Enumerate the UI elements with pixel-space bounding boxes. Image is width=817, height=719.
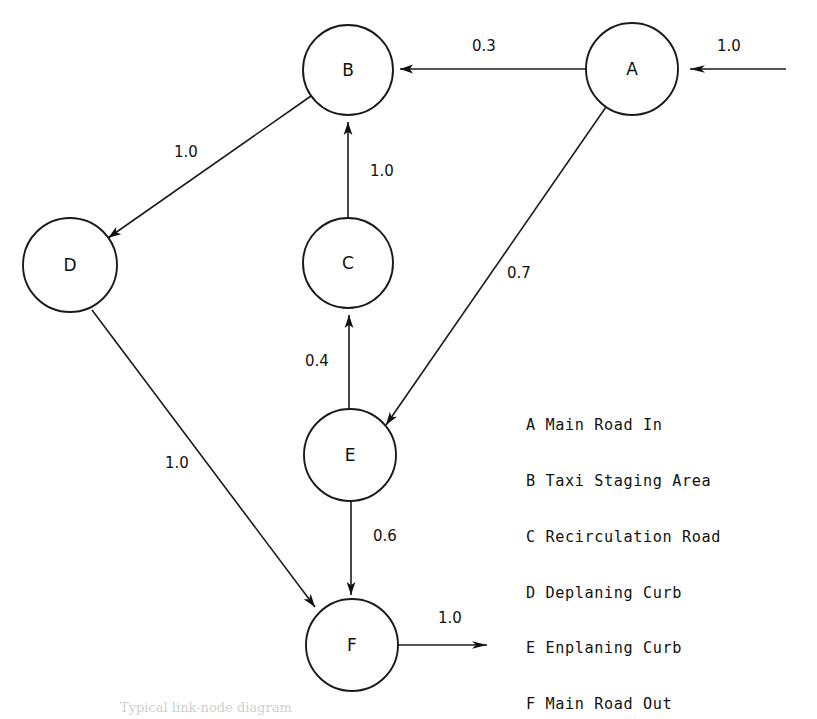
node-label-D: D — [63, 255, 76, 275]
legend: A Main Road In B Taxi Staging Area C Rec… — [526, 379, 721, 719]
edge-A-to-B: 0.3 — [400, 37, 586, 69]
edge-label-out-F: 1.0 — [438, 609, 462, 627]
node-label-C: C — [342, 253, 354, 273]
edge-label-E-C: 0.4 — [305, 352, 329, 370]
edge-E-to-C: 0.4 — [305, 315, 349, 409]
node-label-E: E — [345, 445, 356, 465]
legend-item-B: B Taxi Staging Area — [526, 472, 721, 491]
node-E[interactable]: E — [304, 409, 396, 501]
legend-item-A: A Main Road In — [526, 416, 721, 435]
node-F[interactable]: F — [306, 599, 398, 691]
node-B[interactable]: B — [303, 25, 393, 115]
node-label-A: A — [626, 59, 638, 79]
legend-item-C: C Recirculation Road — [526, 528, 721, 547]
edge-label-D-F: 1.0 — [165, 454, 189, 472]
edge-A-to-E: 0.7 — [386, 107, 606, 425]
edge-label-A-B: 0.3 — [472, 37, 496, 55]
edge-F-to-external: 1.0 — [398, 609, 487, 645]
edge-D-to-F: 1.0 — [92, 310, 315, 607]
edge-E-to-F: 0.6 — [351, 501, 397, 595]
node-label-B: B — [342, 60, 354, 80]
edge-label-in-A: 1.0 — [717, 37, 741, 55]
edge-external-to-A: 1.0 — [690, 37, 786, 69]
node-label-F: F — [347, 635, 357, 655]
legend-item-D: D Deplaning Curb — [526, 584, 721, 603]
edge-label-B-D: 1.0 — [174, 143, 198, 161]
figure-caption: Typical link-node diagram — [120, 700, 292, 715]
link-node-diagram: 1.0 0.3 1.0 1.0 0.7 0.4 0. — [0, 0, 817, 719]
edge-label-A-E: 0.7 — [507, 264, 531, 282]
edge-label-E-F: 0.6 — [373, 527, 397, 545]
edge-B-to-D: 1.0 — [108, 96, 311, 238]
legend-item-E: E Enplaning Curb — [526, 639, 721, 658]
edge-label-C-B: 1.0 — [370, 162, 394, 180]
edge-C-to-B: 1.0 — [348, 122, 394, 218]
node-A[interactable]: A — [586, 23, 678, 115]
legend-item-F: F Main Road Out — [526, 695, 721, 714]
node-C[interactable]: C — [303, 218, 393, 308]
node-D[interactable]: D — [23, 218, 117, 312]
